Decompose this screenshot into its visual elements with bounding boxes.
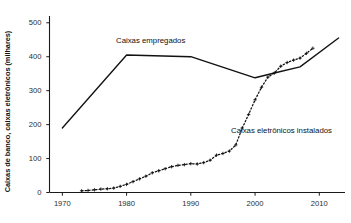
chart-plot-area [0, 0, 351, 223]
x-axis-tick-label: 1990 [174, 199, 208, 208]
annotation-caixas-eletronicos: Caixas eletrônicos instalados [231, 126, 332, 135]
axis-lines [50, 16, 346, 193]
y-axis-tick-label: 300 [16, 86, 42, 95]
x-axis-tick-label: 2000 [238, 199, 272, 208]
chart-container: Caixas de banco, caixas eletrônicos (mil… [0, 0, 351, 223]
series-line-caixas-empregados [62, 38, 338, 128]
x-axis-tick-label: 1970 [45, 199, 79, 208]
y-axis-tick-label: 100 [16, 154, 42, 163]
y-axis-tick-label: 200 [16, 120, 42, 129]
series-line-caixas-eletronicos [82, 48, 313, 191]
x-axis-tick-label: 2010 [302, 199, 336, 208]
x-axis-tick-label: 1980 [110, 199, 144, 208]
y-axis-tick-label: 500 [16, 18, 42, 27]
annotation-caixas-empregados: Caixas empregados [116, 36, 185, 45]
y-axis-tick-label: 0 [16, 188, 42, 197]
y-axis-tick-label: 400 [16, 52, 42, 61]
